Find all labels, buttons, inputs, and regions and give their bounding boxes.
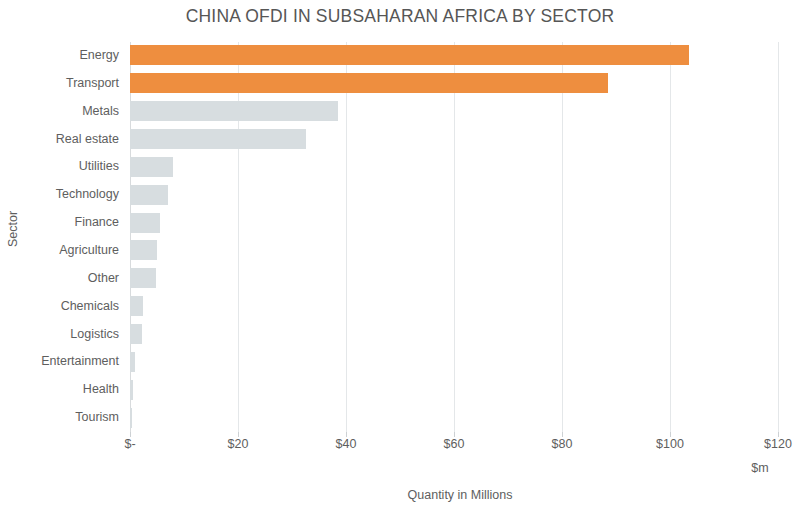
y-category-label: Agriculture (59, 237, 119, 264)
bar-row[interactable] (130, 70, 778, 97)
y-category-label: Metals (82, 98, 119, 125)
y-category-label: Entertainment (41, 348, 119, 375)
x-tick-label: $40 (301, 437, 391, 451)
bar[interactable] (130, 324, 142, 344)
bar-row[interactable] (130, 404, 778, 431)
bar-row[interactable] (130, 237, 778, 264)
y-category-label: Real estate (56, 126, 119, 153)
x-tick-label: $- (85, 437, 175, 451)
bar-row[interactable] (130, 42, 778, 69)
bar[interactable] (130, 240, 157, 260)
bar[interactable] (130, 352, 135, 372)
bar-row[interactable] (130, 265, 778, 292)
y-category-label: Transport (66, 70, 119, 97)
bar-row[interactable] (130, 209, 778, 236)
bar[interactable] (130, 213, 160, 233)
bar[interactable] (130, 157, 173, 177)
x-tick-label: $80 (517, 437, 607, 451)
y-category-label: Technology (56, 181, 119, 208)
y-category-label: Health (83, 376, 119, 403)
y-category-label: Utilities (79, 153, 119, 180)
y-category-label: Chemicals (61, 293, 119, 320)
y-category-label: Finance (75, 209, 119, 236)
bar[interactable] (130, 408, 132, 428)
y-axis-title: Sector (6, 199, 20, 259)
bar-row[interactable] (130, 181, 778, 208)
bar[interactable] (130, 45, 689, 65)
bar[interactable] (130, 380, 133, 400)
bar[interactable] (130, 185, 168, 205)
bar-row[interactable] (130, 376, 778, 403)
y-category-label: Energy (79, 42, 119, 69)
y-category-label: Logistics (70, 321, 119, 348)
bar[interactable] (130, 129, 306, 149)
bar[interactable] (130, 73, 608, 93)
bar-row[interactable] (130, 348, 778, 375)
y-category-label: Tourism (75, 404, 119, 431)
x-tick-label: $100 (625, 437, 715, 451)
bar-row[interactable] (130, 98, 778, 125)
x-axis-title: Quantity in Millions (130, 488, 790, 502)
bar[interactable] (130, 296, 143, 316)
x-tick-label: $20 (193, 437, 283, 451)
bar-row[interactable] (130, 293, 778, 320)
gridline-120 (778, 42, 779, 432)
x-tick-label: $60 (409, 437, 499, 451)
x-tick-label: $120 (733, 437, 800, 451)
y-category-label: Other (88, 265, 119, 292)
bar-row[interactable] (130, 126, 778, 153)
bar-row[interactable] (130, 321, 778, 348)
bar-row[interactable] (130, 153, 778, 180)
bar[interactable] (130, 268, 156, 288)
bar[interactable] (130, 101, 338, 121)
x-axis-unit-label: $m (720, 461, 800, 475)
plot-area (130, 42, 778, 432)
chart-title: CHINA OFDI IN SUBSAHARAN AFRICA BY SECTO… (0, 6, 800, 27)
